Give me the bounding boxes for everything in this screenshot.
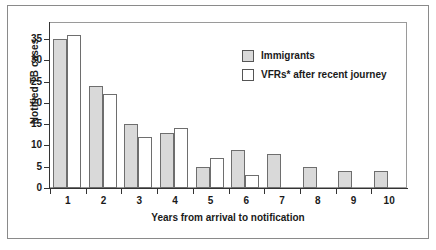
x-tick-mark xyxy=(121,189,122,194)
y-tick-mark xyxy=(44,167,49,168)
x-tick-label: 1 xyxy=(55,196,81,206)
x-tick-mark xyxy=(229,189,230,194)
y-tick-label: 30 xyxy=(18,55,42,65)
legend-label-immigrants: Immigrants xyxy=(261,50,315,61)
bar-immigrants-year-8 xyxy=(303,167,317,188)
y-tick-mark xyxy=(44,188,49,189)
x-tick-label: 7 xyxy=(269,196,295,206)
x-tick-mark xyxy=(300,189,301,194)
x-tick-mark xyxy=(86,189,87,194)
y-tick-mark xyxy=(44,60,49,61)
bar-immigrants-year-10 xyxy=(374,171,388,188)
bar-immigrants-year-7 xyxy=(267,154,281,188)
bar-immigrants-year-4 xyxy=(160,133,174,188)
y-tick-label: 0 xyxy=(18,183,42,193)
x-tick-label: 9 xyxy=(340,196,366,206)
y-tick-label: 25 xyxy=(18,77,42,87)
y-tick-label: 10 xyxy=(18,140,42,150)
legend-swatch-gray-square-icon xyxy=(242,50,254,62)
x-tick-label: 8 xyxy=(305,196,331,206)
y-tick-mark xyxy=(44,124,49,125)
x-tick-mark xyxy=(157,189,158,194)
bar-group xyxy=(86,22,122,188)
bar-vfrs-year-5 xyxy=(210,158,224,188)
x-tick-label: 2 xyxy=(91,196,117,206)
bar-immigrants-year-1 xyxy=(53,39,67,188)
x-tick-label: 6 xyxy=(233,196,259,206)
bar-vfrs-year-3 xyxy=(138,137,152,188)
legend-swatch-white-square-icon xyxy=(242,69,254,81)
bar-group xyxy=(121,22,157,188)
y-tick-mark xyxy=(44,103,49,104)
bar-vfrs-year-6 xyxy=(245,175,259,188)
chart-legend: Immigrants VFRs* after recent journey xyxy=(242,47,402,85)
x-tick-label: 10 xyxy=(376,196,402,206)
chart-figure: Notified TB cases Years from arrival to … xyxy=(0,0,436,250)
x-tick-label: 3 xyxy=(126,196,152,206)
bar-vfrs-year-2 xyxy=(103,94,117,188)
y-tick-mark xyxy=(44,82,49,83)
bar-immigrants-year-2 xyxy=(89,86,103,188)
legend-item-vfrs: VFRs* after recent journey xyxy=(242,66,402,83)
bar-immigrants-year-5 xyxy=(196,167,210,188)
x-tick-mark xyxy=(336,189,337,194)
y-tick-label: 20 xyxy=(18,98,42,108)
y-tick-mark xyxy=(44,145,49,146)
bar-immigrants-year-6 xyxy=(231,150,245,188)
x-tick-label: 4 xyxy=(162,196,188,206)
bar-vfrs-year-1 xyxy=(67,35,81,188)
x-tick-label: 5 xyxy=(198,196,224,206)
bar-group xyxy=(50,22,86,188)
legend-item-immigrants: Immigrants xyxy=(242,47,402,64)
y-tick-label: 5 xyxy=(18,162,42,172)
x-tick-mark xyxy=(193,189,194,194)
bar-group xyxy=(193,22,229,188)
x-tick-mark xyxy=(371,189,372,194)
y-tick-label: 15 xyxy=(18,119,42,129)
bar-immigrants-year-9 xyxy=(338,171,352,188)
x-tick-mark xyxy=(50,189,51,194)
y-tick-mark xyxy=(44,39,49,40)
x-tick-mark xyxy=(264,189,265,194)
x-axis-title: Years from arrival to notification xyxy=(49,212,407,223)
bar-vfrs-year-4 xyxy=(174,128,188,188)
bar-immigrants-year-3 xyxy=(124,124,138,188)
bar-group xyxy=(157,22,193,188)
legend-label-vfrs: VFRs* after recent journey xyxy=(261,69,387,80)
y-tick-label: 35 xyxy=(18,34,42,44)
